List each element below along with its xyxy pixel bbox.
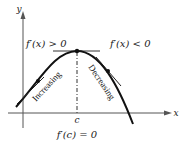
x-axis-arrow-icon bbox=[164, 111, 172, 116]
y-axis-label: y bbox=[15, 4, 22, 14]
critical-point-label: c bbox=[74, 115, 79, 125]
critical-point bbox=[75, 49, 79, 53]
critical-derivative-condition: f′(c) = 0 bbox=[56, 129, 98, 140]
right-derivative-condition: f′(x) < 0 bbox=[109, 38, 151, 49]
left-tangent-point bbox=[36, 79, 40, 83]
y-axis bbox=[21, 11, 26, 128]
x-axis-label: x bbox=[173, 108, 178, 118]
left-derivative-condition: f′(x) > 0 bbox=[25, 38, 67, 49]
x-axis bbox=[8, 111, 172, 116]
increasing-decreasing-diagram: y x f′(x) > 0 f′(x) < 0 c f′(c) = 0 Incr… bbox=[0, 0, 182, 153]
right-tangent-point bbox=[106, 69, 110, 73]
